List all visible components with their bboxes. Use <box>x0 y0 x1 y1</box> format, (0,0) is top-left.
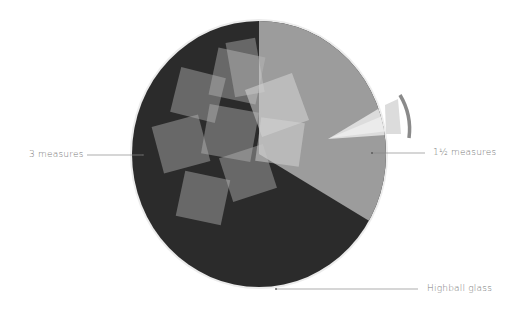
label-highball-glass: Highball glass <box>427 283 492 293</box>
drink-diagram: 3 measures 1½ measures Highball glass <box>0 0 507 309</box>
label-3-measures: 3 measures <box>29 149 84 159</box>
straw-rim-accent <box>400 95 410 138</box>
label-1-5-measures: 1½ measures <box>433 147 496 157</box>
straw-outer <box>385 99 401 134</box>
